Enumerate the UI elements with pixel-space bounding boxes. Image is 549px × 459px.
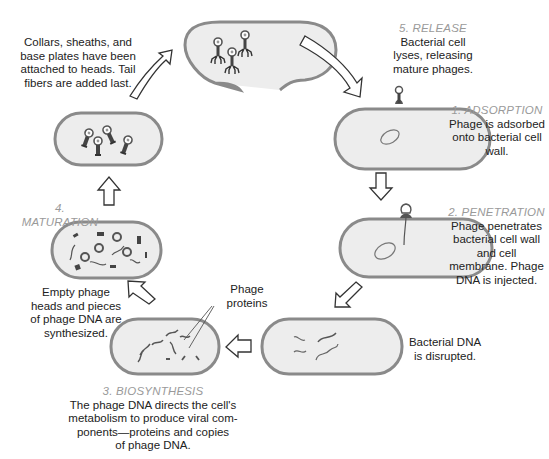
stage-release-label: 5. RELEASE Bacterial cell lyses, releasi…	[378, 22, 488, 76]
note-phage-proteins: Phage proteins	[222, 283, 272, 310]
stage-release-name: 5. RELEASE	[378, 22, 488, 36]
stage-adsorption-name: 1. ADSORPTION	[447, 104, 547, 118]
note-parts-synthesized: Empty phage heads and pieces of phage DN…	[20, 286, 132, 340]
stage-penetration-label: 2. PENETRATION Phage penetrates bacteria…	[444, 206, 549, 287]
stage-penetration-name: 2. PENETRATION	[444, 206, 549, 220]
arrow-penetration-to-disrupted	[335, 282, 362, 307]
note-assembled: Collars, sheaths, and base plates have b…	[18, 36, 138, 90]
stage-biosynthesis-name: 3. BIOSYNTHESIS	[48, 385, 258, 399]
stage-maturation-label: 4. MATURATION	[18, 202, 102, 229]
arrow-synthesized-to-maturation	[98, 177, 120, 205]
stage-biosynthesis-description: The phage DNA directs the cell's metabol…	[48, 399, 258, 453]
stage-penetration-description: Phage penetrates bacterial cell wall and…	[444, 220, 549, 288]
stage-biosynthesis-label: 3. BIOSYNTHESIS The phage DNA directs th…	[48, 385, 258, 453]
cell-maturation	[55, 113, 162, 165]
cell-release	[185, 22, 336, 90]
note-dna-disrupted: Bacterial DNA is disrupted.	[405, 336, 485, 363]
stage-adsorption-label: 1. ADSORPTION Phage is adsorbed onto bac…	[447, 104, 547, 158]
cell-parts-synthesized	[52, 222, 161, 278]
cell-dna-disrupted	[262, 319, 402, 374]
arrow-disrupted-to-biosynthesis	[226, 335, 251, 357]
stage-release-description: Bacterial cell lyses, releasing mature p…	[378, 36, 488, 77]
stage-adsorption-description: Phage is adsorbed onto bacterial cell wa…	[447, 118, 547, 159]
stage-maturation-name: 4. MATURATION	[18, 202, 102, 229]
arrow-biosynthesis-to-synthesized	[128, 281, 155, 304]
arrow-adsorption-to-penetration	[370, 173, 392, 200]
